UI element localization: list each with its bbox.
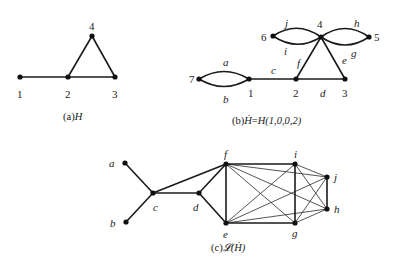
edge-c-a-c bbox=[125, 163, 153, 193]
node-label: 2 bbox=[65, 88, 71, 100]
node-label: 3 bbox=[112, 88, 118, 100]
figure-canvas: 1 2 3 4 (a)H 7 1 2 3 4 5 6 a b bbox=[0, 0, 397, 263]
edge-a-2-4 bbox=[68, 36, 92, 77]
edge-label: c bbox=[271, 64, 276, 76]
edge-label: e bbox=[342, 54, 347, 66]
node-label: a bbox=[109, 157, 115, 169]
node-label: 4 bbox=[317, 18, 323, 30]
graph-b: 7 1 2 3 4 5 6 a b c d e f g h i j (b)Ḣ=H… bbox=[189, 17, 380, 127]
node-c-g bbox=[292, 220, 297, 225]
edge-label: f bbox=[297, 57, 302, 69]
node-label: 5 bbox=[374, 31, 380, 43]
node-c-c bbox=[150, 190, 155, 195]
caption-prefix: (a) bbox=[63, 111, 75, 123]
edge-label: g bbox=[351, 47, 357, 59]
caption-prefix: (b) bbox=[232, 115, 245, 127]
edge-label: i bbox=[284, 45, 287, 57]
edge-a-3-4 bbox=[92, 36, 115, 77]
node-b-5 bbox=[366, 34, 371, 39]
edge-label: b bbox=[223, 93, 229, 105]
edge-label: a bbox=[223, 56, 229, 68]
node-b-6 bbox=[270, 33, 275, 38]
node-b-3 bbox=[342, 76, 347, 81]
node-b-7 bbox=[196, 76, 201, 81]
node-c-d bbox=[196, 190, 201, 195]
node-a-2 bbox=[65, 74, 70, 79]
edge-b-a bbox=[199, 72, 249, 80]
node-c-h bbox=[324, 206, 329, 211]
edge-b-h bbox=[321, 29, 369, 38]
graph-c: a b c d e f g h i j (c)𝓛(Ḣ) bbox=[109, 148, 340, 254]
node-label: 3 bbox=[342, 87, 348, 99]
caption-b: (b)Ḣ=H(1,0,0,2) bbox=[232, 115, 302, 127]
edge-c-d-e bbox=[199, 193, 226, 223]
graph-a: 1 2 3 4 (a)H bbox=[17, 20, 118, 123]
edge-b-g bbox=[321, 37, 369, 45]
caption-prefix: (c) bbox=[211, 242, 223, 254]
edge-c-d-f bbox=[199, 164, 226, 193]
node-label: g bbox=[292, 227, 298, 239]
node-label: f bbox=[224, 148, 229, 160]
edge-label: j bbox=[283, 17, 288, 29]
node-label: h bbox=[334, 203, 340, 215]
node-a-1 bbox=[17, 74, 22, 79]
node-label: i bbox=[294, 148, 297, 160]
node-a-3 bbox=[112, 74, 117, 79]
node-c-f bbox=[223, 161, 228, 166]
caption-name: H bbox=[74, 111, 84, 122]
edge-b-b bbox=[199, 79, 249, 87]
node-b-1 bbox=[246, 76, 251, 81]
node-c-e bbox=[223, 220, 228, 225]
node-a-4 bbox=[89, 33, 94, 38]
node-label: 1 bbox=[17, 88, 23, 100]
node-label: e bbox=[223, 228, 228, 240]
edge-c-b-c bbox=[126, 193, 153, 222]
edge-c-c-f bbox=[153, 164, 226, 193]
graph-figure: 1 2 3 4 (a)H 7 1 2 3 4 5 6 a b bbox=[0, 0, 397, 263]
edge-label: d bbox=[320, 87, 326, 99]
edge-b-i bbox=[273, 36, 321, 44]
edge-b-j bbox=[273, 28, 321, 37]
node-c-b bbox=[123, 219, 128, 224]
node-b-4 bbox=[318, 34, 323, 39]
node-label: 1 bbox=[248, 87, 254, 99]
node-label: c bbox=[153, 201, 158, 213]
caption-name: 𝓛(Ḣ) bbox=[223, 242, 246, 254]
node-b-2 bbox=[293, 76, 298, 81]
node-c-a bbox=[122, 160, 127, 165]
node-label: 7 bbox=[189, 73, 195, 85]
node-label: 4 bbox=[89, 20, 95, 32]
edge-label: h bbox=[354, 17, 360, 29]
node-label: d bbox=[193, 201, 199, 213]
caption-rhs: H(1,0,0,2) bbox=[257, 115, 302, 127]
node-label: 6 bbox=[261, 31, 267, 43]
node-c-i bbox=[292, 161, 297, 166]
node-label: b bbox=[110, 217, 116, 229]
node-label: 2 bbox=[293, 87, 299, 99]
node-c-j bbox=[324, 174, 329, 179]
caption-c: (c)𝓛(Ḣ) bbox=[211, 242, 246, 254]
node-label: j bbox=[332, 171, 337, 183]
caption-a: (a)H bbox=[63, 111, 84, 123]
